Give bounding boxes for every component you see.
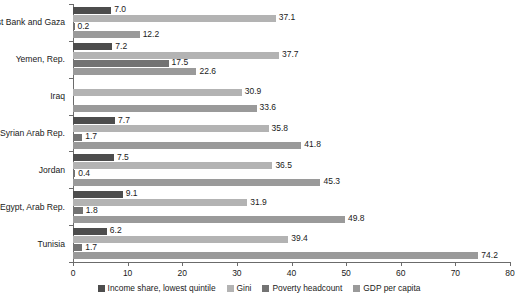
bar-value-label: 1.8 (86, 207, 98, 214)
bar (73, 199, 247, 206)
x-axis-tick-label: 80 (505, 268, 514, 278)
bar (73, 179, 320, 186)
y-axis-tick (69, 262, 73, 263)
bar-value-label: 37.7 (282, 51, 299, 58)
legend-label: GDP per capita (363, 283, 420, 293)
x-axis-tick-label: 10 (123, 268, 132, 278)
category-label: Iraq (50, 91, 65, 101)
legend-item[interactable]: Income share, lowest quintile (98, 283, 216, 293)
bar-value-label: 22.6 (199, 68, 216, 75)
legend-swatch-icon (98, 285, 105, 292)
legend-label: Gini (237, 283, 252, 293)
x-axis-tick (292, 262, 293, 266)
x-axis-tick (73, 262, 74, 266)
x-axis-tick (128, 262, 129, 266)
category-label: Jordan (39, 165, 65, 175)
bar (73, 216, 345, 223)
x-axis-tick (182, 262, 183, 266)
y-axis-tick (69, 151, 73, 152)
y-axis-tick (69, 225, 73, 226)
x-axis-tick-label: 50 (341, 268, 350, 278)
x-axis-tick (237, 262, 238, 266)
bar (73, 23, 75, 30)
bar (73, 15, 276, 22)
bar-value-label: 45.3 (323, 178, 340, 185)
x-axis-tick (401, 262, 402, 266)
x-axis-tick (510, 262, 511, 266)
category-label: West Bank and Gaza (0, 17, 65, 27)
legend-swatch-icon (353, 285, 360, 292)
category-label: Egypt, Arab Rep. (0, 202, 65, 212)
bar (73, 7, 111, 14)
bar-value-label: 1.7 (85, 244, 97, 251)
bar-value-label: 37.1 (279, 14, 296, 21)
plot-area: 7.037.10.212.27.237.717.522.630.933.67.7… (73, 4, 510, 262)
bar-value-label: 74.2 (481, 252, 498, 259)
bar-value-label: 30.9 (245, 88, 262, 95)
bar (73, 191, 123, 198)
bar (73, 134, 82, 141)
x-axis-tick-label: 70 (451, 268, 460, 278)
category-axis-labels: West Bank and GazaYemen, Rep.IraqSyrian … (0, 4, 69, 262)
y-axis-tick (69, 188, 73, 189)
x-axis-tick-label: 0 (71, 268, 76, 278)
legend-swatch-icon (262, 285, 269, 292)
x-axis-tick-label: 40 (287, 268, 296, 278)
bar (73, 89, 242, 96)
bar-value-label: 9.1 (126, 190, 138, 197)
x-axis-tick-label: 60 (396, 268, 405, 278)
bar-value-label: 1.7 (85, 133, 97, 140)
bar (73, 105, 257, 112)
legend-item[interactable]: Gini (227, 283, 252, 293)
y-axis-tick (69, 115, 73, 116)
bar (73, 162, 272, 169)
bar-chart: West Bank and GazaYemen, Rep.IraqSyrian … (0, 0, 518, 298)
bar (73, 207, 83, 214)
x-axis-tick-label: 20 (178, 268, 187, 278)
y-axis-tick (69, 4, 73, 5)
bar (73, 68, 196, 75)
bar (73, 142, 301, 149)
bar (73, 125, 269, 132)
bar-value-label: 7.7 (118, 117, 130, 124)
bar-value-label: 49.8 (348, 215, 365, 222)
chart-legend: Income share, lowest quintileGiniPoverty… (0, 283, 518, 293)
bar (73, 60, 169, 67)
legend-item[interactable]: GDP per capita (353, 283, 420, 293)
bar-value-label: 31.9 (250, 199, 267, 206)
bar (73, 117, 115, 124)
bar (73, 43, 112, 50)
category-label: Syrian Arab Rep. (0, 128, 65, 138)
bar-value-label: 0.4 (78, 170, 90, 177)
x-axis-tick (455, 262, 456, 266)
bar (73, 31, 140, 38)
legend-item[interactable]: Poverty headcount (262, 283, 342, 293)
bar-value-label: 33.6 (260, 104, 277, 111)
bar-value-label: 7.2 (115, 43, 127, 50)
legend-label: Income share, lowest quintile (108, 283, 216, 293)
bar (73, 244, 82, 251)
category-label: Tunisia (38, 239, 65, 249)
bar (73, 228, 107, 235)
bar (73, 236, 288, 243)
bar-value-label: 36.5 (275, 162, 292, 169)
bar (73, 154, 114, 161)
legend-label: Poverty headcount (272, 283, 342, 293)
bar-value-label: 39.4 (291, 235, 308, 242)
x-axis-tick (346, 262, 347, 266)
category-label: Yemen, Rep. (16, 54, 65, 64)
y-axis-tick (69, 41, 73, 42)
bar-value-label: 7.5 (117, 154, 129, 161)
bar-value-label: 41.8 (304, 141, 321, 148)
legend-swatch-icon (227, 285, 234, 292)
bar-value-label: 12.2 (143, 31, 160, 38)
bar-value-label: 35.8 (272, 125, 289, 132)
x-axis-tick-label: 30 (232, 268, 241, 278)
bar-value-label: 6.2 (110, 227, 122, 234)
bar (73, 252, 478, 259)
y-axis-tick (69, 78, 73, 79)
bar-value-label: 0.2 (78, 23, 90, 30)
bar-value-label: 7.0 (114, 6, 126, 13)
bar (73, 170, 75, 177)
bar-value-label: 17.5 (172, 59, 189, 66)
